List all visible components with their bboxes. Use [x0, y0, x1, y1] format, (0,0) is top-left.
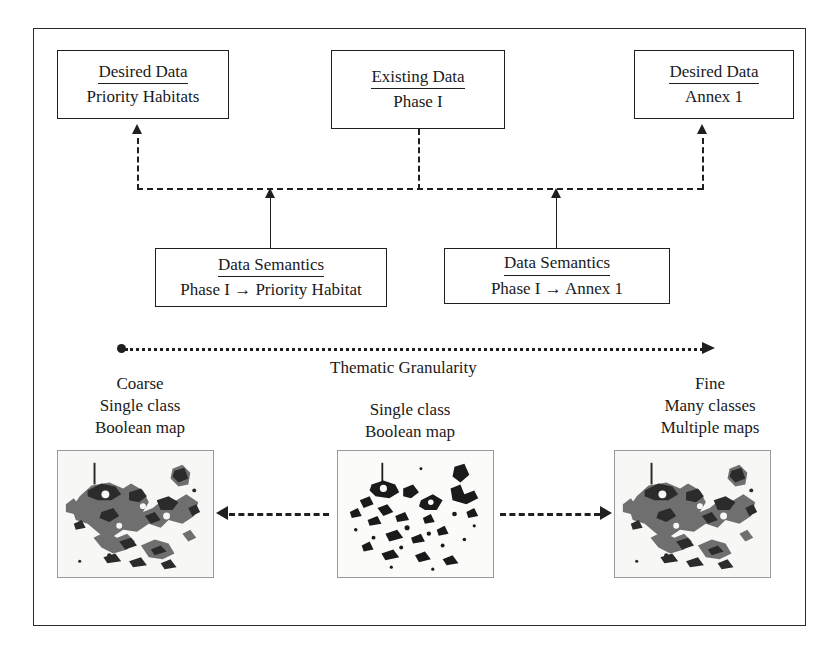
box-title: Data Semantics	[218, 255, 324, 277]
box-existing-data-phase-i: Existing Data Phase I	[331, 50, 505, 129]
box-body: Phase I → Annex 1	[491, 279, 623, 299]
thematic-granularity-axis	[117, 344, 717, 354]
axis-dotted-line	[125, 348, 703, 351]
solid-connector-semantics-right	[556, 198, 557, 248]
dashed-arrow-line-left	[229, 513, 329, 516]
arrowhead-semantics-left	[265, 188, 275, 198]
box-body: Annex 1	[685, 87, 743, 107]
caption-line-3: Boolean map	[55, 417, 225, 439]
axis-arrowhead-icon	[702, 342, 715, 354]
figure-canvas: Desired Data Priority Habitats Existing …	[0, 0, 840, 659]
caption-line-2: Many classes	[612, 395, 808, 417]
box-title: Desired Data	[98, 62, 187, 84]
arrowhead-right-icon	[600, 506, 612, 520]
arrowhead-semantics-right	[551, 188, 561, 198]
dashed-arrow-line-right	[500, 513, 600, 516]
solid-connector-semantics-left	[270, 198, 271, 248]
box-desired-data-annex-1: Desired Data Annex 1	[634, 50, 794, 119]
box-data-semantics-annex-1: Data Semantics Phase I → Annex 1	[444, 248, 670, 304]
map-thumbnail-middle	[337, 450, 494, 578]
axis-label: Thematic Granularity	[330, 358, 477, 378]
caption-coarse: Coarse Single class Boolean map	[55, 373, 225, 438]
box-title: Data Semantics	[504, 253, 610, 275]
box-title: Desired Data	[669, 62, 758, 84]
caption-fine: Fine Many classes Multiple maps	[612, 373, 808, 438]
dashed-connector-right	[702, 138, 704, 190]
box-title: Existing Data	[371, 67, 464, 89]
arrowhead-to-priority-habitats	[132, 124, 142, 134]
dashed-bus-line	[137, 188, 703, 190]
caption-line-1: Single class	[310, 399, 510, 421]
caption-line-2: Single class	[55, 395, 225, 417]
caption-middle: Single class Boolean map	[310, 399, 510, 443]
arrowhead-left-icon	[216, 506, 228, 520]
map-thumbnail-fine	[614, 450, 771, 578]
box-body: Phase I	[393, 92, 443, 112]
dashed-connector-left	[137, 138, 139, 190]
dashed-connector-middle	[418, 129, 420, 190]
arrowhead-to-annex-1	[697, 124, 707, 134]
box-data-semantics-priority-habitat: Data Semantics Phase I → Priority Habita…	[155, 248, 387, 307]
map-thumbnail-coarse	[57, 450, 214, 578]
map-raster-coarse	[58, 451, 213, 577]
caption-line-2: Boolean map	[310, 421, 510, 443]
caption-line-1: Fine	[612, 373, 808, 395]
map-raster-fine	[615, 451, 770, 577]
caption-line-1: Coarse	[55, 373, 225, 395]
box-body: Priority Habitats	[87, 87, 200, 107]
box-desired-data-priority-habitats: Desired Data Priority Habitats	[57, 50, 229, 119]
map-raster-middle	[338, 451, 493, 577]
caption-line-3: Multiple maps	[612, 417, 808, 439]
box-body: Phase I → Priority Habitat	[180, 280, 361, 300]
